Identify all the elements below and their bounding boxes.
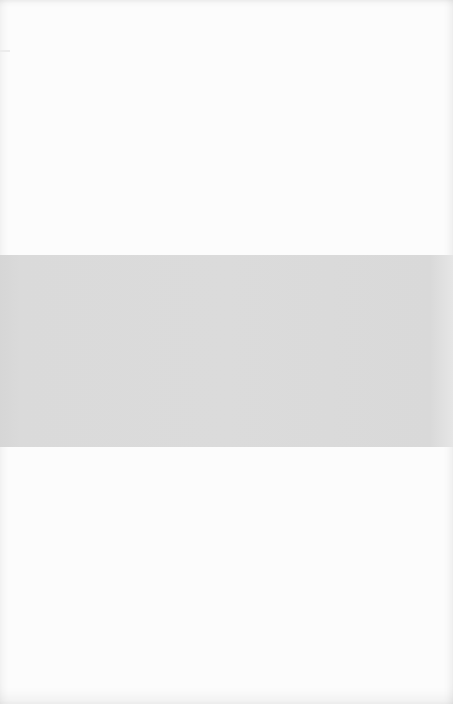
scanned-page <box>0 0 453 704</box>
gray-band <box>0 255 453 447</box>
edge-mark <box>0 50 10 52</box>
